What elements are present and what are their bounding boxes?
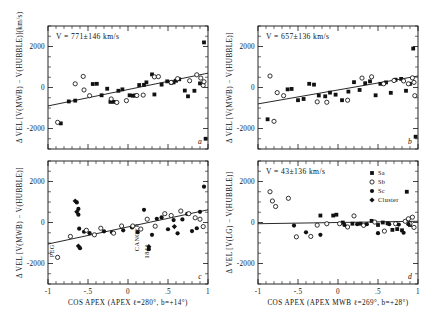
data-point-sa bbox=[153, 93, 157, 97]
legend-marker-sa bbox=[370, 171, 374, 175]
data-point-sb bbox=[152, 75, 156, 79]
data-point-sc bbox=[172, 218, 176, 222]
data-point-sc bbox=[155, 217, 159, 221]
data-point-sb bbox=[412, 225, 416, 229]
y-axis-unit-a: (km/s) bbox=[16, 11, 24, 32]
y-tick-label-c: -2000 bbox=[27, 260, 45, 268]
data-point-sa bbox=[266, 117, 270, 121]
legend-label-cluster: Cluster bbox=[378, 196, 399, 203]
data-point-sa bbox=[312, 83, 316, 87]
data-point-sb bbox=[352, 214, 356, 218]
data-point-sa bbox=[145, 80, 149, 84]
panel-letter-c: c bbox=[198, 272, 202, 281]
legend-label-sc: Sc bbox=[378, 187, 385, 194]
data-point-sa bbox=[100, 93, 104, 97]
data-point-sa bbox=[193, 89, 197, 93]
data-point-sb bbox=[315, 100, 319, 104]
x-tick-label-c: 1 bbox=[206, 288, 210, 296]
x-tick-label-d: .5 bbox=[375, 288, 381, 296]
x-tick-label-d: -1 bbox=[255, 288, 262, 296]
data-point-sa bbox=[91, 82, 95, 86]
data-point-sa bbox=[358, 88, 362, 92]
data-point-sb bbox=[176, 77, 180, 81]
data-point-sa bbox=[73, 99, 77, 103]
y-axis-title-d: Δ VEL [V(LG) − V(HUBBLE)] bbox=[226, 171, 234, 273]
data-point-sc bbox=[387, 222, 391, 226]
data-point-sb bbox=[360, 76, 364, 80]
data-point-sb bbox=[82, 88, 86, 92]
data-point-sb bbox=[325, 222, 329, 226]
data-point-sa bbox=[296, 98, 300, 102]
data-point-sb bbox=[325, 100, 329, 104]
data-point-sb bbox=[406, 217, 410, 221]
x-axis-title-c: COS APEX (APEX ℓ=280°, b=+14°) bbox=[68, 299, 188, 307]
data-point-sa bbox=[290, 87, 294, 91]
data-point-sa bbox=[186, 94, 190, 98]
x-tick-label-d: -.5 bbox=[294, 288, 303, 296]
data-point-sb bbox=[169, 213, 173, 217]
data-point-sb bbox=[115, 100, 119, 104]
data-point-sb bbox=[286, 196, 290, 200]
x-tick-label-c: .5 bbox=[165, 288, 171, 296]
data-point-sa bbox=[160, 83, 164, 87]
y-axis-title-c: Δ VEL [V(MWB) − V(HUBBLE)] bbox=[16, 167, 24, 278]
data-point-sb bbox=[382, 82, 386, 86]
data-point-sa bbox=[347, 90, 351, 94]
panel-letter-d: d bbox=[408, 272, 412, 281]
data-point-sc bbox=[190, 229, 194, 233]
data-point-sa bbox=[95, 82, 99, 86]
data-point-sb bbox=[163, 212, 167, 216]
data-point-sc bbox=[318, 233, 322, 237]
data-point-sb bbox=[179, 209, 183, 213]
data-point-sa bbox=[340, 98, 344, 102]
data-point-sb bbox=[84, 228, 88, 232]
panel-letter-b: b bbox=[408, 137, 412, 146]
data-point-sc bbox=[195, 226, 199, 230]
y-tick-label-a: 2000 bbox=[29, 43, 45, 51]
y-tick-label-a: 0 bbox=[41, 84, 45, 92]
data-point-sa bbox=[204, 137, 208, 141]
data-point-sc bbox=[397, 222, 401, 226]
x-tick-label-c: 0 bbox=[126, 288, 130, 296]
data-point-sc bbox=[202, 185, 206, 189]
data-point-sa bbox=[334, 93, 338, 97]
data-point-sb bbox=[272, 119, 276, 123]
data-point-sb bbox=[412, 80, 416, 84]
annotation-peg: PEG bbox=[48, 244, 55, 257]
data-point-sc bbox=[77, 227, 81, 231]
data-point-sb bbox=[112, 231, 116, 235]
y-tick-label-b: 0 bbox=[251, 84, 255, 92]
data-point-sb bbox=[56, 255, 60, 259]
data-point-sa bbox=[105, 87, 109, 91]
y-tick-label-d: 2000 bbox=[239, 178, 255, 186]
legend-marker-cluster bbox=[369, 197, 374, 202]
data-point-sb bbox=[309, 234, 313, 238]
data-point-sa bbox=[302, 97, 306, 101]
data-point-sa bbox=[323, 94, 327, 98]
data-point-sc bbox=[342, 223, 346, 227]
legend-marker-sb bbox=[370, 180, 374, 184]
y-tick-label-d: 0 bbox=[251, 219, 255, 227]
data-point-sb bbox=[188, 79, 192, 83]
data-point-sa bbox=[317, 94, 321, 98]
data-point-sc bbox=[176, 231, 180, 235]
data-point-sb bbox=[156, 75, 160, 79]
data-point-sa bbox=[117, 89, 121, 93]
data-point-sa bbox=[411, 47, 415, 51]
legend-marker-sc bbox=[370, 189, 374, 193]
data-point-sb bbox=[145, 217, 149, 221]
data-point-sb bbox=[202, 80, 206, 84]
data-point-sb bbox=[315, 223, 319, 227]
data-point-sb bbox=[268, 190, 272, 194]
data-point-sb bbox=[153, 224, 157, 228]
data-point-sb bbox=[406, 82, 410, 86]
data-point-sb bbox=[382, 229, 386, 233]
data-point-sb bbox=[56, 120, 60, 124]
y-axis-title-a: Δ VEL [V(MWB) − V(HUBBLE)] bbox=[16, 32, 24, 143]
data-point-sa bbox=[404, 89, 408, 93]
panel-note-a: V = 771±146 km/s bbox=[56, 32, 119, 41]
data-point-sc bbox=[406, 222, 410, 226]
data-point-sb bbox=[169, 80, 173, 84]
data-point-sa bbox=[165, 79, 169, 83]
data-point-sb bbox=[370, 75, 374, 79]
